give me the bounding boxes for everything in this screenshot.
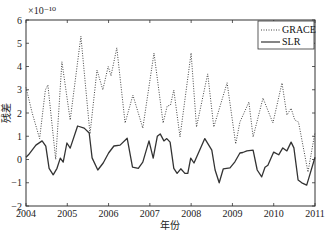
- y-tick-label: 4: [17, 61, 22, 72]
- legend-slr-label: SLR: [282, 36, 301, 47]
- y-tick-label: 1: [17, 131, 22, 142]
- y-tick-label: 2: [17, 108, 22, 119]
- y-multiplier-label: ×10⁻¹⁰: [28, 5, 56, 16]
- legend-grace-label: GRACE: [282, 24, 316, 35]
- y-tick-label: −1: [11, 177, 22, 188]
- x-tick-label: 2004: [16, 208, 36, 219]
- x-tick-label: 2008: [181, 208, 201, 219]
- x-tick-label: 2007: [140, 208, 160, 219]
- legend: GRACE SLR: [258, 21, 316, 49]
- y-tick-label: 6: [17, 15, 22, 26]
- x-tick-label: 2005: [57, 208, 77, 219]
- y-axis-label: 残差: [0, 103, 12, 123]
- y-tick-label: 3: [17, 84, 22, 95]
- x-axis-label: 年份: [160, 219, 180, 231]
- x-tick-label: 2006: [99, 208, 119, 219]
- line-chart: −2−10123456 2004200520062007200820092010…: [0, 0, 329, 236]
- y-tick-label: 0: [17, 154, 22, 165]
- y-tick-label: 5: [17, 38, 22, 49]
- x-tick-label: 2010: [264, 208, 284, 219]
- x-tick-label: 2009: [222, 208, 242, 219]
- x-tick-label: 2011: [305, 208, 325, 219]
